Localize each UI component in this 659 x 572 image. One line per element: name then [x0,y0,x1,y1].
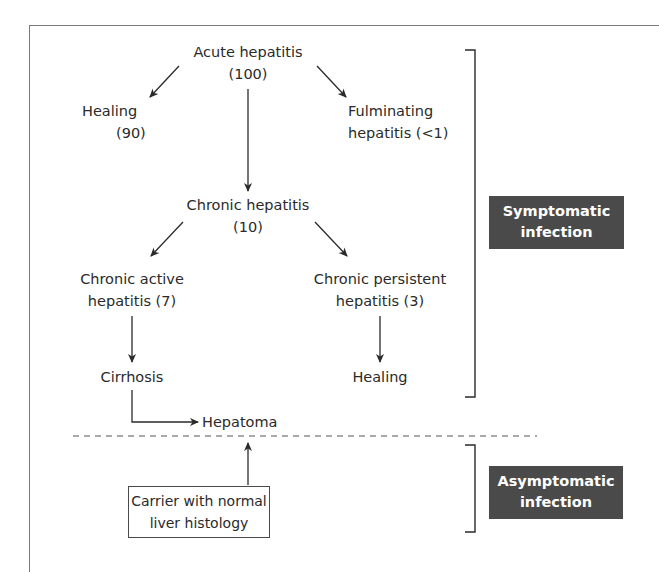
node-chronic-hepatitis-title: Chronic hepatitis [168,194,328,216]
node-carrier-line1: Carrier with normal [129,490,269,512]
label-asymptomatic-infection: Asymptomatic infection [489,466,623,519]
node-carrier-line2: liver histology [129,512,269,534]
label-symptomatic-line2: infection [489,222,624,243]
node-healing-top: Healing (90) [82,100,162,144]
node-acute-hepatitis-count: (100) [174,63,322,85]
node-acute-hepatitis: Acute hepatitis (100) [174,41,322,85]
node-fulminating-count: hepatitis (<1) [348,122,478,144]
node-hepatoma-title: Hepatoma [202,411,302,433]
node-carrier-box: Carrier with normal liver histology [128,486,270,538]
node-chronic-hepatitis-count: (10) [168,216,328,238]
node-chronic-persistent-hepatitis: Chronic persistent hepatitis (3) [294,268,466,312]
label-asymptomatic-line2: infection [489,492,623,513]
label-asymptomatic-line1: Asymptomatic [489,471,623,492]
node-healing-top-title: Healing [82,100,162,122]
node-acute-hepatitis-title: Acute hepatitis [174,41,322,63]
node-healing-bottom-title: Healing [335,366,425,388]
node-chronic-active-count: hepatitis (7) [64,290,200,312]
label-symptomatic-infection: Symptomatic infection [489,196,624,249]
node-cirrhosis: Cirrhosis [82,366,182,388]
node-healing-bottom: Healing [335,366,425,388]
node-healing-top-count: (90) [82,122,162,144]
node-chronic-persistent-title: Chronic persistent [294,268,466,290]
node-fulminating-title: Fulminating [348,100,478,122]
label-symptomatic-line1: Symptomatic [489,201,624,222]
node-hepatoma: Hepatoma [202,411,302,433]
node-chronic-hepatitis: Chronic hepatitis (10) [168,194,328,238]
node-chronic-persistent-count: hepatitis (3) [294,290,466,312]
node-fulminating-hepatitis: Fulminating hepatitis (<1) [348,100,478,144]
node-cirrhosis-title: Cirrhosis [82,366,182,388]
node-chronic-active-hepatitis: Chronic active hepatitis (7) [64,268,200,312]
node-chronic-active-title: Chronic active [64,268,200,290]
